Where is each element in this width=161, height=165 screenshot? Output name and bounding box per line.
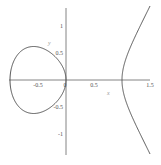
elliptic-curve-plot: -0.500.51.5 10.5-0.5-1 x y: [0, 0, 161, 165]
y-axis-label: y: [47, 40, 51, 46]
x-tick-label: 1.5: [146, 82, 154, 88]
y-tick-label: -1: [58, 131, 63, 137]
x-tick-label: -0.5: [33, 82, 43, 88]
x-axis-label: x: [106, 90, 110, 96]
x-tick-labels: -0.500.51.5: [33, 82, 154, 88]
y-tick-label: 0.5: [56, 50, 64, 56]
x-tick-label: 0.5: [90, 82, 98, 88]
x-tick-label: 0: [64, 82, 67, 88]
y-tick-label: -0.5: [54, 104, 64, 110]
y-tick-label: 1: [60, 23, 63, 29]
plot-area: -0.500.51.5 10.5-0.5-1 x y: [0, 0, 161, 165]
